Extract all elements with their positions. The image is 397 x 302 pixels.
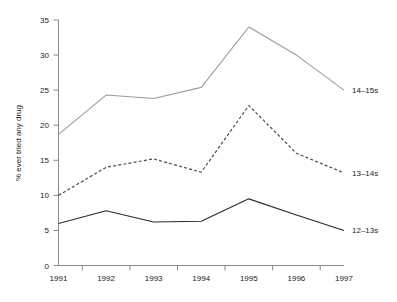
y-tick-label: 15	[40, 156, 49, 165]
y-tick-label: 35	[40, 16, 49, 25]
y-tick-label: 20	[40, 121, 49, 130]
y-axis-ticks: 05101520253035	[40, 16, 58, 271]
series-line-12-13-	[59, 199, 345, 231]
series-label-2: 12–13s	[352, 226, 378, 235]
x-axis-ticks: 1991199219931994199519961997	[50, 266, 354, 283]
x-tick-label: 1991	[50, 274, 68, 283]
series-line-14-15-	[59, 27, 345, 134]
series-labels-group: 14–15s13–14s12–13s	[352, 86, 378, 235]
series-group	[59, 27, 345, 230]
chart-canvas: 05101520253035 1991199219931994199519961…	[0, 0, 397, 302]
y-tick-label: 30	[40, 51, 49, 60]
y-tick-label: 10	[40, 191, 49, 200]
y-tick-label: 0	[45, 262, 50, 271]
x-tick-label: 1993	[145, 274, 163, 283]
x-tick-label: 1995	[240, 274, 258, 283]
x-tick-label: 1994	[192, 274, 210, 283]
line-chart: 05101520253035 1991199219931994199519961…	[0, 0, 397, 302]
x-tick-label: 1992	[97, 274, 115, 283]
x-tick-label: 1997	[335, 274, 353, 283]
series-label-1: 13–14s	[352, 169, 378, 178]
series-label-0: 14–15s	[352, 86, 378, 95]
x-tick-label: 1996	[288, 274, 306, 283]
y-tick-label: 5	[45, 226, 50, 235]
series-line-13-14-	[59, 106, 345, 196]
y-tick-label: 25	[40, 86, 49, 95]
y-axis-title: % ever tried any drug	[14, 105, 23, 181]
